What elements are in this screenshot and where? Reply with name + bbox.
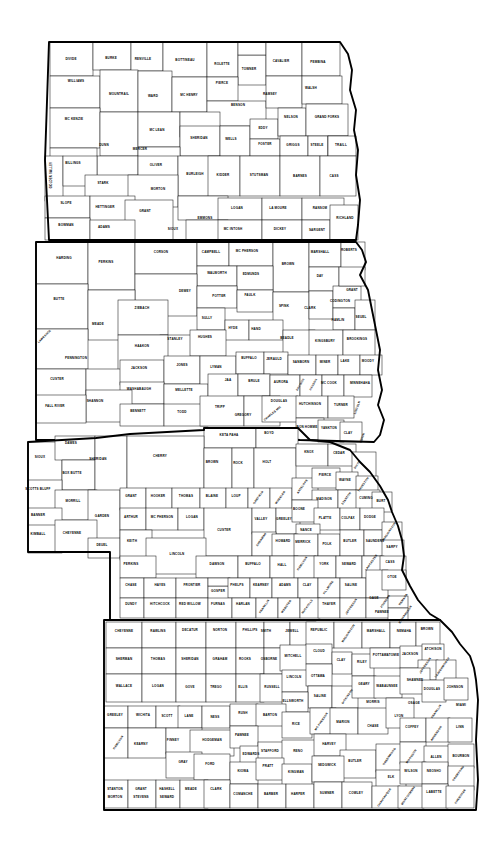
county-label: BROWN — [282, 262, 295, 266]
county-label: KIOWA — [237, 769, 249, 773]
county-label: MERCER — [133, 147, 148, 151]
county-label: JACKSON — [402, 652, 418, 656]
county-label: BURKE — [105, 56, 117, 60]
county-label: CLOUD — [313, 649, 325, 653]
county-label: BOWMAN — [58, 223, 73, 227]
county-label: SARPY — [386, 545, 397, 549]
county-label: CHERRY — [153, 454, 167, 458]
county-label: MORRILL — [65, 499, 80, 503]
county-label: PLATTE — [319, 516, 332, 520]
county-label: EDDY — [258, 126, 267, 130]
county-label: PAWNEE — [375, 610, 389, 614]
county-label: BOONE — [293, 507, 305, 511]
county-label: SCOTT — [161, 714, 172, 718]
county-label: GRAY — [178, 760, 187, 764]
county-label: PENNINGTON — [65, 356, 87, 360]
county-label: CASS — [385, 560, 394, 564]
county-label: SHERIDAN — [89, 457, 106, 461]
county-label: SHANNON — [87, 399, 104, 403]
county-label: MORTON — [108, 795, 123, 799]
county-label: GARDEN — [95, 514, 109, 518]
county-label: GRANT — [135, 787, 147, 791]
county-label: DOUGLAS — [271, 399, 288, 403]
county-label: TOWNER — [242, 67, 257, 71]
county-label: WILSON — [404, 769, 417, 773]
county-label: BUTLER — [343, 539, 357, 543]
county-label: HOOKER — [151, 494, 166, 498]
county-label: BURT — [376, 499, 385, 503]
county-label: JAA — [225, 378, 232, 382]
county-label: NESS — [210, 715, 219, 719]
county-label: STAFFORD — [261, 749, 279, 753]
county-label: RENVILLE — [135, 57, 152, 61]
county-label: DODGE — [364, 515, 376, 519]
county-label: RUSH — [238, 711, 247, 715]
county-label: OSBORNE — [261, 657, 278, 661]
county-label: STARK — [97, 181, 109, 185]
county-label: ROBERTS — [341, 248, 357, 252]
county-label: ADAMS — [279, 583, 291, 587]
county-label: ARTHUR — [124, 515, 139, 519]
county-label: COFFEY — [405, 725, 418, 729]
county-label: RICHLAND — [336, 216, 354, 220]
county-label: SALINE — [345, 583, 357, 587]
county-label: HARLAN — [236, 602, 250, 606]
county-label: PERKINS — [99, 260, 114, 264]
county-label: WAYNE — [339, 478, 351, 482]
county-label: CLAY — [337, 658, 346, 662]
county-label: BANNER — [31, 513, 46, 517]
county-label: ROLETTE — [214, 62, 229, 66]
county-label: HOWARD — [276, 539, 292, 543]
county-label: SUMNER — [320, 791, 335, 795]
county-label: WABAUNSEE — [376, 684, 397, 688]
county-label: GRANT — [125, 494, 137, 498]
county-label: AURORA — [274, 380, 289, 384]
county-label: BRULE — [248, 379, 259, 383]
county-label: PERKINS — [124, 562, 139, 566]
county-label: DAWES — [65, 441, 77, 445]
county-label: SEWARD — [342, 562, 357, 566]
county-label: KIDDER — [217, 173, 230, 177]
county-label: COMANCHE — [233, 792, 252, 796]
county-label: THOMAS — [179, 494, 193, 498]
county-label: HAAKON — [135, 344, 149, 348]
county-label: ELLSWORTH — [283, 699, 304, 703]
county-label: DUNN — [99, 143, 109, 147]
county-label: CLAY — [344, 431, 353, 435]
county-label: LOGAN — [186, 515, 198, 519]
county-label: CAMPBELL — [202, 250, 220, 254]
county-label: FINNEY — [167, 738, 179, 742]
county-label: BENNETT — [130, 409, 146, 413]
county-label: BENSON — [231, 103, 245, 107]
county-label: ADAMS — [98, 225, 110, 229]
county-label: BOX BUTTE — [62, 471, 81, 475]
county-label: CUSTER — [50, 377, 64, 381]
county-label: POLK — [322, 542, 332, 546]
county-label: PHILLIPS — [242, 628, 257, 632]
county-label: OSAGE — [408, 701, 420, 705]
county-label: SIOUX — [35, 455, 45, 459]
county-label: HASKELL — [159, 787, 175, 791]
county-label: TREGO — [210, 685, 222, 689]
county-label: KINGMAN — [288, 770, 304, 774]
county-label: SARGENT — [309, 228, 325, 232]
county-label: ROOKS — [239, 657, 251, 661]
county-label: MOODY — [362, 359, 374, 363]
county-label: KNOX — [304, 450, 314, 454]
county-label: GOLDEN VALLEY — [49, 162, 53, 188]
county-label: CHEYENNE — [115, 629, 133, 633]
county-label: CHASE — [367, 724, 379, 728]
county-label: MARSHALL — [311, 250, 330, 254]
county-label: WICHITA — [136, 713, 151, 717]
county-label: MC LEAN — [149, 128, 164, 132]
county-label: SHERIDAN — [190, 136, 207, 140]
county-label: PHELPS — [230, 583, 243, 587]
county-label: DUNDY — [125, 602, 137, 606]
county-label: KETA PAHA — [220, 433, 239, 437]
county-label: DAWSON — [210, 562, 225, 566]
county-label: GREELEY — [107, 713, 123, 717]
county-label: BROWN — [206, 460, 219, 464]
county-label: RANSOM — [313, 206, 328, 210]
county-label: GRANT — [139, 209, 151, 213]
county-label: BARNES — [293, 174, 307, 178]
